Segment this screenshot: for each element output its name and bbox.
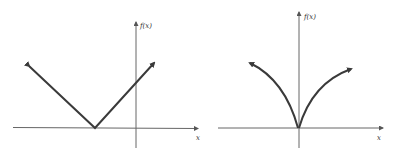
right-x-axis-label: x: [377, 134, 381, 142]
left-x-axis: [13, 128, 198, 129]
right-graph: f(x) x: [218, 12, 383, 148]
left-x-axis-label: x: [196, 134, 200, 142]
left-v-curve: [29, 63, 154, 128]
right-cusp-left-branch: [250, 63, 298, 128]
right-cusp-right-branch: [299, 69, 351, 128]
right-y-axis-label: f(x): [303, 13, 316, 21]
left-y-axis-label: f(x): [139, 22, 152, 30]
left-graph: f(x) x: [13, 22, 200, 148]
graphs-canvas: f(x) x f(x) x: [0, 0, 399, 156]
